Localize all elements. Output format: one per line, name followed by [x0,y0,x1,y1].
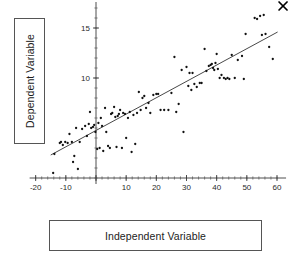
data-point [71,141,73,143]
outlier-x-marker [279,2,287,10]
x-axis-tick-label: 60 [273,183,282,192]
data-point [152,94,154,96]
data-point [127,117,129,119]
data-point [115,146,117,148]
data-point [138,91,140,93]
data-point [216,53,218,55]
data-point [77,168,79,170]
data-point [157,93,159,95]
data-point [102,150,104,152]
dependent-variable-label-box: Dependent Variable [14,18,45,144]
data-point [170,92,172,94]
data-point [62,144,64,146]
data-point [143,95,145,97]
data-point [178,103,180,105]
data-point [134,143,136,145]
data-point [193,83,195,85]
data-point [188,72,190,74]
y-axis-tick-label: 15 [81,24,90,33]
data-point [163,109,165,111]
data-point [190,89,192,91]
data-point [53,153,55,155]
data-point [129,111,131,113]
dependent-variable-label: Dependent Variable [24,34,36,128]
data-point [114,116,116,118]
data-point [145,107,147,109]
data-point [94,131,96,133]
data-point [124,113,126,115]
data-point [203,48,205,50]
data-point [196,86,198,88]
data-point [147,102,149,104]
data-point [121,147,123,149]
data-point [104,107,106,109]
data-point [89,111,91,113]
data-point [205,70,207,72]
data-point [92,126,94,128]
tick-labels-layer: -20-101020304050601015 [30,24,282,192]
data-point [73,155,75,157]
data-point [264,33,266,35]
data-point [185,66,187,68]
data-point [105,131,107,133]
data-point [263,14,265,16]
data-point [200,82,202,84]
data-point [100,117,102,119]
data-point [191,72,193,74]
data-point [219,77,221,79]
data-point [234,77,236,79]
data-point [256,18,258,20]
data-point [101,125,103,127]
data-point [187,85,189,87]
data-point [66,142,68,144]
data-point [231,54,233,56]
regression-line-layer [51,32,278,155]
x-axis-tick-label: 20 [152,183,161,192]
data-point [243,78,245,80]
data-point [88,123,90,125]
y-axis-tick-label: 10 [81,74,90,83]
independent-variable-label-box: Independent Variable [49,220,262,251]
data-point [111,112,113,114]
data-point [259,15,261,17]
data-point [109,147,111,149]
data-point [132,114,134,116]
data-point [75,127,77,129]
x-axis-tick-label: -10 [60,183,72,192]
data-point [149,112,151,114]
x-axis-tick-label: 50 [242,183,251,192]
data-point [52,172,54,174]
data-point [68,133,70,135]
data-point [182,131,184,133]
data-point [141,97,143,99]
data-point [96,148,98,150]
data-point [175,111,177,113]
data-point [119,109,121,111]
data-point [118,113,120,115]
data-point [159,109,161,111]
data-point [213,69,215,71]
data-point [93,124,95,126]
data-point [79,141,81,143]
x-axis-tick-label: 40 [212,183,221,192]
independent-variable-label: Independent Variable [105,230,206,242]
data-point [244,33,246,35]
regression-line [51,32,278,155]
data-point [212,67,214,69]
data-point [228,78,230,80]
data-point [237,59,239,61]
data-point [98,147,100,149]
data-point [64,141,66,143]
data-point [211,63,213,65]
data-point [241,55,243,57]
data-point [60,141,62,143]
data-point [84,125,86,127]
data-point [214,62,216,64]
x-axis-tick-label: 30 [182,183,191,192]
x-axis-tick-label: -20 [30,183,42,192]
data-point [125,137,127,139]
data-point [113,106,115,108]
data-point [217,68,219,70]
data-point [254,17,256,19]
annotations-layer [279,2,287,10]
